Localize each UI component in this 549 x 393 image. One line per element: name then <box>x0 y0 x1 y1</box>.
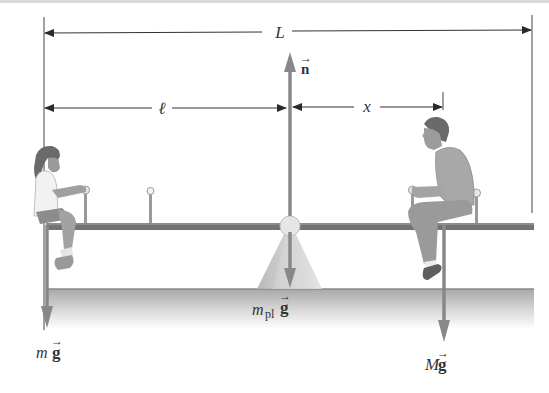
normal-force-arrow <box>284 52 296 216</box>
girl-weight-label: m g → <box>36 334 63 362</box>
svg-text:→: → <box>437 346 449 360</box>
man-figure <box>408 117 474 280</box>
dimension-L: L <box>45 23 531 42</box>
seesaw-torque-diagram: L ℓ x <box>0 0 549 393</box>
ell-label: ℓ <box>158 99 165 118</box>
svg-text:→: → <box>300 51 312 65</box>
svg-text:→: → <box>279 289 291 303</box>
svg-text:pl: pl <box>265 307 275 321</box>
L-label: L <box>274 23 284 42</box>
girl-weight-arrow <box>41 225 53 328</box>
girl-figure <box>34 146 86 270</box>
svg-text:m: m <box>36 344 48 361</box>
x-label: x <box>362 97 371 116</box>
normal-force-label: n → <box>300 51 312 77</box>
svg-text:m: m <box>252 301 264 318</box>
dimension-ell: ℓ <box>45 99 286 118</box>
ground <box>48 289 534 329</box>
top-border <box>0 0 549 3</box>
man-weight-label: M g → <box>424 346 449 374</box>
svg-text:→: → <box>51 334 63 348</box>
diagram-canvas: L ℓ x <box>0 0 549 393</box>
man-weight-arrow <box>438 225 450 342</box>
dimension-x: x <box>293 97 442 116</box>
